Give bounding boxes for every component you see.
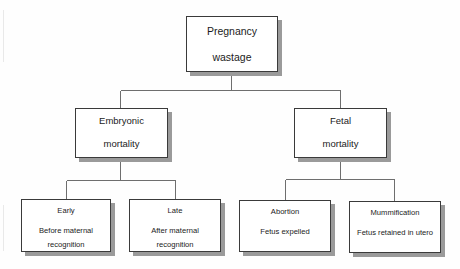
node-title: Abortion <box>271 208 299 217</box>
node-description-line1: After maternal <box>151 226 199 235</box>
node-late[interactable]: Late After maternal recognition <box>129 199 221 252</box>
node-description-line2: recognition <box>39 241 93 250</box>
node-description-line2: recognition <box>151 241 199 250</box>
node-label-line1: Fetal <box>330 116 351 127</box>
node-label-line2: mortality <box>323 139 359 150</box>
node-label-line2: mortality <box>104 139 140 150</box>
node-description: Before maternal recognition <box>39 227 93 250</box>
diagram-canvas: Pregnancy wastage Embryonic mortality Fe… <box>0 0 460 269</box>
node-title: Mummification <box>371 209 420 218</box>
node-title: Early <box>57 207 74 216</box>
node-description: Fetus retained in utero <box>357 229 433 238</box>
node-title: Late <box>168 207 183 216</box>
node-description-line1: Before maternal <box>39 226 93 235</box>
node-label-line1: Embryonic <box>99 116 144 127</box>
node-label-line2: wastage <box>212 51 251 63</box>
node-description: After maternal recognition <box>151 227 199 250</box>
node-description: Fetus expelled <box>260 228 309 237</box>
node-embryonic-mortality[interactable]: Embryonic mortality <box>75 108 168 158</box>
node-description-line1: Fetus expelled <box>260 227 309 236</box>
node-abortion[interactable]: Abortion Fetus expelled <box>239 200 331 252</box>
node-fetal-mortality[interactable]: Fetal mortality <box>294 108 387 158</box>
node-pregnancy-wastage[interactable]: Pregnancy wastage <box>186 16 278 72</box>
node-label-line1: Pregnancy <box>207 25 257 37</box>
node-description-line1: Fetus retained in utero <box>357 228 433 237</box>
node-mummification[interactable]: Mummification Fetus retained in utero <box>349 201 441 253</box>
node-early[interactable]: Early Before maternal recognition <box>21 199 111 252</box>
